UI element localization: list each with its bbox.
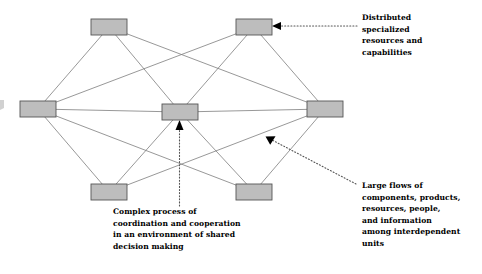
arrow-head-distributed-resources xyxy=(272,22,281,30)
large-flows-note-line-5: among interdependent xyxy=(362,226,482,238)
large-flows-note-line-3: resources, people, xyxy=(362,203,482,215)
network-edge-middle-right-to-bottom-left xyxy=(127,116,307,185)
network-edge-top-right-to-middle-center xyxy=(187,35,247,104)
network-node-middle-center[interactable] xyxy=(162,104,198,120)
annotation-complex-process: Complex process ofcoordination and coope… xyxy=(113,206,293,252)
network-edge-middle-left-to-middle-center xyxy=(56,109,162,111)
network-edge-top-right-to-middle-right xyxy=(261,35,318,101)
arrow-head-complex-process xyxy=(176,120,184,130)
diagram-canvas: Distributedspecializedresources andcapab… xyxy=(0,0,482,274)
large-flows-note-line-1: Large flows of xyxy=(362,180,482,192)
network-edge-middle-center-to-bottom-left xyxy=(116,120,173,184)
large-flows-note-line-4: and information xyxy=(362,215,482,227)
annotation-large-flows: Large flows ofcomponents, products,resou… xyxy=(362,180,482,250)
complex-process-note-line-4: decision making xyxy=(113,241,293,253)
large-flows-note-line-2: components, products, xyxy=(362,192,482,204)
arrow-line-large-flows xyxy=(272,140,356,184)
left-edge-artifact xyxy=(0,100,4,110)
network-node-top-left[interactable] xyxy=(91,19,127,35)
network-edge-top-right-to-middle-left xyxy=(56,34,236,102)
network-edge-top-left-to-middle-center xyxy=(116,35,174,104)
distributed-resources-note-line-2: specialized xyxy=(362,24,482,36)
distributed-resources-note-line-3: resources and xyxy=(362,35,482,47)
complex-process-note-line-1: Complex process of xyxy=(113,206,293,218)
network-node-top-right[interactable] xyxy=(236,19,272,35)
network-edge-middle-center-to-middle-right xyxy=(198,109,307,111)
annotation-distributed-resources: Distributedspecializedresources andcapab… xyxy=(362,12,482,58)
network-node-bottom-right[interactable] xyxy=(236,184,272,200)
network-edge-middle-right-to-bottom-right xyxy=(261,117,318,184)
large-flows-note-line-6: units xyxy=(362,238,482,250)
network-edge-middle-left-to-bottom-left xyxy=(45,117,102,184)
network-node-middle-left[interactable] xyxy=(20,101,56,117)
network-node-middle-right[interactable] xyxy=(307,101,343,117)
complex-process-note-line-2: coordination and cooperation xyxy=(113,218,293,230)
complex-process-note-line-3: in an environment of shared xyxy=(113,229,293,241)
distributed-resources-note-line-4: capabilities xyxy=(362,47,482,59)
network-node-bottom-left[interactable] xyxy=(91,184,127,200)
distributed-resources-note-line-1: Distributed xyxy=(362,12,482,24)
network-edge-top-left-to-middle-right xyxy=(127,34,307,102)
network-edge-middle-center-to-bottom-right xyxy=(187,120,246,184)
network-edge-top-left-to-middle-left xyxy=(45,35,102,101)
